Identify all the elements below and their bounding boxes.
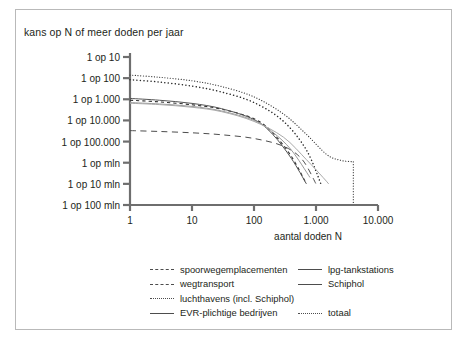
legend-key-icon xyxy=(298,264,322,274)
legend-item-totaal[interactable]: totaal xyxy=(298,307,351,318)
legend-row: wegtransportSchiphol xyxy=(150,277,430,292)
legend-item-empty xyxy=(298,293,328,303)
legend-label: totaal xyxy=(328,307,351,318)
legend-key-icon xyxy=(150,308,174,318)
series-totaal xyxy=(130,75,353,162)
legend-row: luchthavens (incl. Schiphol) xyxy=(150,291,430,306)
x-tick-label-0: 1 xyxy=(127,215,133,226)
legend-label: wegtransport xyxy=(180,278,234,289)
legend-label: EVR-plichtige bedrijven xyxy=(180,307,277,318)
series-schiphol xyxy=(130,103,329,184)
legend-key-icon xyxy=(298,293,322,303)
legend-label: lpg-tankstations xyxy=(328,264,394,275)
series-luchthavens-incl-schiphol- xyxy=(130,80,321,184)
legend-key-icon xyxy=(150,264,174,274)
legend-item-schiphol[interactable]: Schiphol xyxy=(298,278,364,289)
legend-row: EVR-plichtige bedrijventotaal xyxy=(150,306,430,321)
legend-key-icon xyxy=(150,293,174,303)
legend-item-luchthavens-incl-schiphol-[interactable]: luchthavens (incl. Schiphol) xyxy=(150,293,298,304)
legend-key-icon xyxy=(298,308,322,318)
y-tick-label-0: 1 op 10 xyxy=(87,52,120,63)
legend-key-icon xyxy=(298,279,322,289)
y-tick-label-2: 1 op 1.000 xyxy=(73,94,120,105)
x-tick-label-3: 1.000 xyxy=(303,215,328,226)
x-tick-label-2: 100 xyxy=(246,215,263,226)
y-tick-label-6: 1 op 10 mln xyxy=(68,178,120,189)
y-tick-label-3: 1 op 10.000 xyxy=(67,115,120,126)
x-tick-label-1: 10 xyxy=(186,215,197,226)
chart-page: kans op N of meer doden per jaar 1 op 10… xyxy=(0,0,470,345)
legend-item-wegtransport[interactable]: wegtransport xyxy=(150,278,298,289)
legend-item-lpg-tankstations[interactable]: lpg-tankstations xyxy=(298,264,394,275)
legend-key-icon xyxy=(150,279,174,289)
series-lpg-tankstations xyxy=(130,103,310,178)
chart-legend: spoorwegemplacementenlpg-tankstationsweg… xyxy=(150,262,430,320)
legend-label: luchthavens (incl. Schiphol) xyxy=(180,293,294,304)
x-axis-title: aantal doden N xyxy=(274,231,342,242)
y-tick-label-7: 1 op 100 mln xyxy=(62,200,120,211)
y-tick-label-4: 1 op 100.000 xyxy=(62,136,120,147)
y-tick-label-5: 1 op mln xyxy=(82,157,120,168)
series-spoorwegemplacementen xyxy=(130,131,316,184)
x-tick-label-4: 10.000 xyxy=(363,215,394,226)
legend-item-spoorwegemplacementen[interactable]: spoorwegemplacementen xyxy=(150,264,298,275)
legend-row: spoorwegemplacementenlpg-tankstations xyxy=(150,262,430,277)
y-tick-label-1: 1 op 100 xyxy=(81,73,120,84)
legend-label: Schiphol xyxy=(328,278,364,289)
legend-label: spoorwegemplacementen xyxy=(180,264,287,275)
legend-item-evr-plichtige-bedrijven[interactable]: EVR-plichtige bedrijven xyxy=(150,307,298,318)
